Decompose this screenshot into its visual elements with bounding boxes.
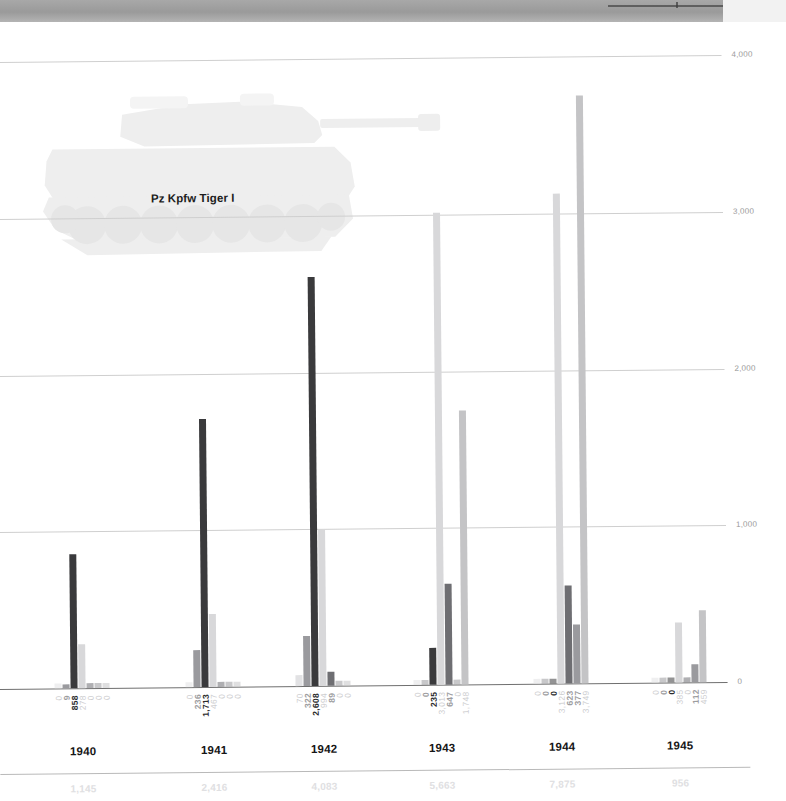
bar-1942-series5[interactable] [327,672,334,686]
year-label-1944: 1944 [516,740,608,753]
bar-1941-series1[interactable] [186,682,193,687]
gridline-2000 [0,369,725,377]
page-top-banner [0,0,786,22]
bar-value-label-1942-series7: 0 [343,693,352,698]
group-totals-layer: 1,1452,4164,0835,6637,875956 [0,26,779,34]
bar-1945-series3[interactable] [667,678,674,683]
bar-1941-series4[interactable] [209,614,217,687]
y-axis-tick-label: 0 [737,677,742,686]
bar-1943-series6[interactable] [453,680,460,685]
bar-1940-series6[interactable] [95,683,102,688]
group-total-1944: 7,875 [516,778,608,790]
bar-1944-series3[interactable] [549,679,556,684]
group-total-1943: 5,663 [396,779,488,791]
bar-1942-series4[interactable] [318,530,326,686]
banner-corner-chip [723,0,786,22]
y-axis-tick-label: 4,000 [731,50,752,59]
bar-1944-series6[interactable] [573,624,581,683]
bar-1943-series4[interactable] [433,212,445,684]
bar-1940-series1[interactable] [55,683,62,688]
bar-1941-series7[interactable] [234,682,241,687]
bar-1941-series6[interactable] [226,682,233,687]
bar-1943-series7[interactable] [459,411,469,685]
bar-1944-series2[interactable] [541,679,548,684]
group-total-1942: 4,083 [278,780,370,792]
group-total-1945: 956 [634,777,726,789]
bar-value-label-1945-series7: 459 [699,689,708,704]
year-label-1941: 1941 [168,744,260,757]
bar-1945-series4[interactable] [675,622,683,682]
bar-value-label-1941-series7: 0 [233,694,242,699]
bar-1943-series3[interactable] [429,648,436,685]
gridline-3000 [0,212,723,220]
tank-silhouette-watermark [34,90,456,269]
bar-1941-series3[interactable] [199,419,209,688]
gridline-layer: 01,0002,0003,0004,000 [0,26,779,34]
bar-1945-series1[interactable] [651,678,658,683]
year-label-1940: 1940 [37,745,129,758]
bar-1942-series3[interactable] [308,277,319,686]
bar-1940-series5[interactable] [87,683,94,688]
y-axis-tick-label: 3,000 [733,206,754,215]
group-total-1941: 2,416 [168,782,260,794]
bar-1941-series5[interactable] [218,682,225,687]
y-axis-tick-label: 1,000 [736,520,757,529]
bar-1942-series1[interactable] [295,675,302,686]
year-label-1945: 1945 [634,739,726,752]
bar-1940-series3[interactable] [69,554,77,689]
bar-1944-series5[interactable] [565,586,573,684]
bar-1942-series7[interactable] [344,681,351,686]
bar-1945-series6[interactable] [691,665,698,683]
tank-name-label: Pz Kpfw Tiger I [151,192,235,205]
year-label-1942: 1942 [278,742,370,755]
year-label-1943: 1943 [396,741,488,754]
bar-value-label-1940-series7: 0 [102,695,111,700]
bar-1944-series4[interactable] [553,194,565,684]
bar-1944-series1[interactable] [533,679,540,684]
bar-1943-series1[interactable] [414,680,421,685]
group-total-1940: 1,145 [37,783,129,795]
bar-1945-series7[interactable] [699,610,707,682]
y-axis-tick-label: 2,000 [734,363,755,372]
chart-plot-area: Pz Kpfw Tiger I 01,0002,0003,0004,000 09… [0,26,786,734]
bar-1940-series4[interactable] [78,645,85,689]
bar-layer: 09858278000194002361,7134670001941703222… [0,26,779,34]
bar-1943-series2[interactable] [422,680,429,685]
bar-1945-series5[interactable] [683,677,690,682]
bar-value-label-1943-series7: 1,748 [461,691,470,714]
bar-1942-series2[interactable] [303,636,310,687]
bar-1943-series5[interactable] [445,583,453,684]
gridline-1000 [0,525,726,533]
bar-1940-series2[interactable] [63,684,70,688]
bar-value-label-1944-series7: 3,749 [581,690,590,713]
totals-separator-rule [0,767,750,775]
banner-tick-mark [676,2,678,8]
bar-1944-series7[interactable] [576,96,589,684]
bar-1945-series2[interactable] [659,678,666,683]
bar-1940-series7[interactable] [103,683,110,688]
bar-1942-series6[interactable] [336,681,343,686]
bar-1941-series2[interactable] [193,650,200,687]
gridline-4000 [0,55,722,63]
